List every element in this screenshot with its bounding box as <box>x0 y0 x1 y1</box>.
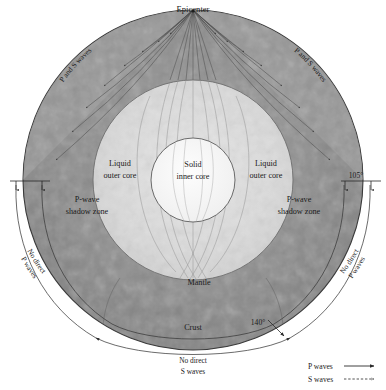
outer-core-right-label-line2: outer core <box>250 171 283 180</box>
legend-s-waves-label: S waves <box>308 375 333 384</box>
outer-core-left-label-line2: outer core <box>104 171 137 180</box>
inner-core-label-line1: Solid <box>184 160 201 169</box>
p-shadow-right-label-line2: shadow zone <box>278 207 321 216</box>
legend: P waves S waves <box>308 362 374 384</box>
crust-label: Crust <box>184 323 202 332</box>
no-direct-s-label-line1: No direct <box>179 356 208 365</box>
p-shadow-left-label-line1: P-wave <box>75 195 100 204</box>
earth-cross-section-svg: Epicenter Liquid outer core Liquid outer… <box>0 0 386 390</box>
outer-core-left-label-line1: Liquid <box>109 159 131 168</box>
legend-p-waves-label: P waves <box>308 362 333 371</box>
p-shadow-left-label-line2: shadow zone <box>66 207 109 216</box>
p-shadow-right-label-line1: P-wave <box>287 195 312 204</box>
seismic-diagram: Epicenter Liquid outer core Liquid outer… <box>0 0 386 390</box>
inner-core-label-line2: inner core <box>177 172 210 181</box>
no-direct-s-label-line2: S waves <box>181 367 206 376</box>
epicenter-label: Epicenter <box>177 4 210 14</box>
angle-140-label: 140° <box>251 318 265 327</box>
outer-core-right-label-line1: Liquid <box>255 159 277 168</box>
mantle-label: Mantle <box>187 278 211 287</box>
angle-105-label: 105° <box>349 171 363 180</box>
